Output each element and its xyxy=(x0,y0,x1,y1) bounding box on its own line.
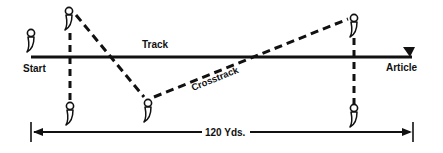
start-label: Start xyxy=(23,63,46,74)
top-right-figure-icon xyxy=(350,14,358,37)
start-figure-icon xyxy=(27,29,35,52)
dimension-arrow-left-icon xyxy=(33,128,43,136)
crosstrack-label: Crosstrack xyxy=(190,64,241,93)
search-pattern-diagram: Start Track Article Crosstrack 120 Yds. xyxy=(0,0,443,153)
dimension-arrow-right-icon xyxy=(402,128,412,136)
bottom-right-figure-icon xyxy=(350,104,358,127)
bottom-left-figure-icon xyxy=(66,102,74,125)
track-label: Track xyxy=(142,39,169,50)
bottom-middle-figure-icon xyxy=(144,99,152,122)
top-left-figure-icon xyxy=(65,7,73,30)
distance-label: 120 Yds. xyxy=(205,127,246,138)
article-label: Article xyxy=(386,62,418,73)
